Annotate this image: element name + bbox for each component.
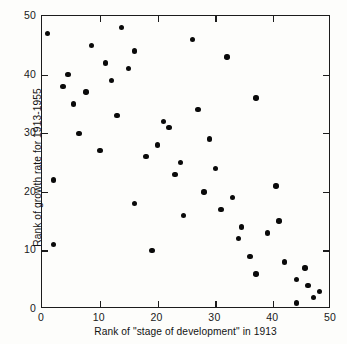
scatter-point <box>45 31 50 36</box>
y-axis-tick-right <box>323 75 329 76</box>
scatter-point <box>294 300 299 305</box>
scatter-point <box>103 60 108 65</box>
scatter-point <box>178 160 183 165</box>
scatter-point <box>166 125 171 130</box>
y-axis-tick <box>42 133 48 134</box>
y-axis-title: Rank of growth rate for 1913-1955 <box>32 63 43 273</box>
scatter-points-layer <box>42 16 329 307</box>
scatter-point <box>132 201 137 206</box>
x-axis-tick <box>273 301 274 307</box>
scatter-point <box>239 224 244 229</box>
scatter-point <box>76 131 81 136</box>
scatter-point <box>273 183 278 188</box>
scatter-point <box>230 195 235 200</box>
y-axis-tick <box>42 75 48 76</box>
y-axis-tick-right <box>323 133 329 134</box>
x-axis-tick-top <box>158 16 159 22</box>
scatter-point <box>294 277 299 282</box>
scatter-point <box>253 95 258 100</box>
x-axis-tick <box>100 301 101 307</box>
x-axis-tick <box>158 301 159 307</box>
x-axis-tick-top <box>273 16 274 22</box>
scatter-point <box>311 295 316 300</box>
x-tick-label: 10 <box>93 311 105 323</box>
x-axis-tick <box>215 301 216 307</box>
scatter-point <box>305 283 310 288</box>
scatter-point <box>71 101 76 106</box>
scatter-point <box>155 142 160 147</box>
y-axis-tick-right <box>323 192 329 193</box>
y-axis-tick <box>42 250 48 251</box>
scatter-point <box>132 48 137 53</box>
scatter-point <box>181 213 186 218</box>
y-tick-label: 0 <box>30 302 36 314</box>
scatter-point <box>97 148 102 153</box>
x-axis-tick-top <box>215 16 216 22</box>
scatter-point <box>247 254 252 259</box>
scatter-point <box>51 177 56 182</box>
chart-page: 01020304050 01020304050 Rank of "stage o… <box>0 0 347 344</box>
scatter-point <box>119 25 124 30</box>
scatter-point <box>114 113 119 118</box>
scatter-point <box>236 236 241 241</box>
scatter-point <box>89 43 94 48</box>
scatter-point <box>190 37 195 42</box>
scatter-point <box>51 242 56 247</box>
scatter-point <box>161 119 166 124</box>
x-tick-label: 20 <box>151 311 163 323</box>
scatter-point <box>60 84 65 89</box>
scatter-point <box>207 136 212 141</box>
y-axis-tick-right <box>323 250 329 251</box>
scatter-point <box>282 259 287 264</box>
scatter-point <box>126 66 131 71</box>
scatter-point <box>317 289 322 294</box>
scatter-point <box>213 166 218 171</box>
scatter-point <box>302 265 307 270</box>
scatter-point <box>265 230 270 235</box>
scatter-point <box>218 207 223 212</box>
scatter-point <box>172 172 177 177</box>
scatter-point <box>83 89 88 94</box>
x-axis-tick-top <box>100 16 101 22</box>
x-tick-label: 40 <box>266 311 278 323</box>
x-tick-label: 50 <box>324 311 336 323</box>
scatter-point <box>224 54 229 59</box>
x-tick-label: 0 <box>38 311 44 323</box>
scatter-point <box>253 271 258 276</box>
scatter-point <box>109 78 114 83</box>
x-tick-label: 30 <box>208 311 220 323</box>
y-axis-tick <box>42 192 48 193</box>
plot-frame <box>41 15 330 308</box>
y-tick-label: 50 <box>24 9 36 21</box>
scatter-point <box>149 248 154 253</box>
x-axis-title: Rank of "stage of development" in 1913 <box>41 326 330 337</box>
scatter-point <box>65 72 70 77</box>
scatter-point <box>143 154 148 159</box>
scatter-point <box>195 107 200 112</box>
scatter-point <box>276 218 281 223</box>
scatter-point <box>201 189 206 194</box>
